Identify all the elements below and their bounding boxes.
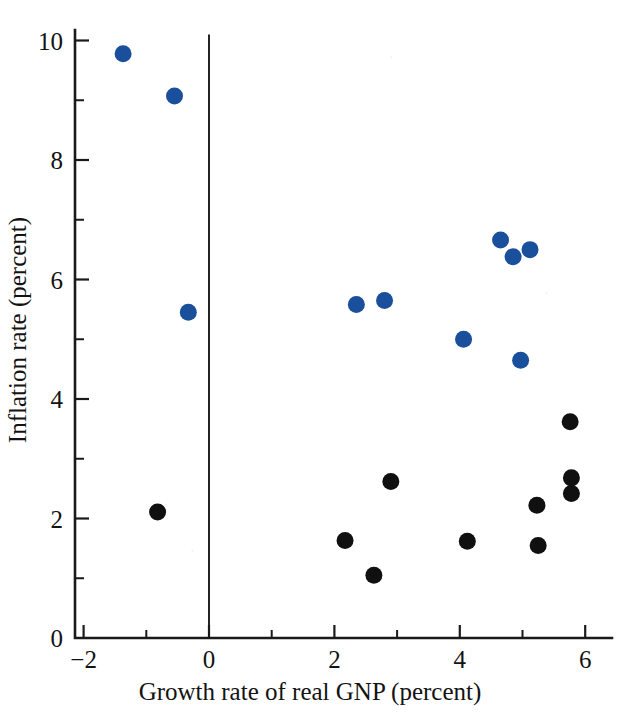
data-point <box>459 533 476 550</box>
data-point <box>512 352 529 369</box>
data-point <box>180 304 197 321</box>
data-point <box>563 469 580 486</box>
plot-canvas: −202460246810 Growth rate of real GNP (p… <box>0 0 621 715</box>
y-tick-label: 6 <box>51 267 64 294</box>
data-point <box>530 537 547 554</box>
data-point <box>166 88 183 105</box>
x-tick-label: 6 <box>579 646 592 673</box>
scatter-plot-figure: −202460246810 Growth rate of real GNP (p… <box>0 0 621 715</box>
data-point <box>337 532 354 549</box>
data-point <box>365 567 382 584</box>
y-tick-label: 4 <box>51 386 64 413</box>
data-point <box>528 497 545 514</box>
data-point <box>348 296 365 313</box>
y-tick-label: 0 <box>51 625 64 652</box>
data-points <box>115 45 580 584</box>
data-point <box>505 248 522 265</box>
y-tick-label: 10 <box>38 28 63 55</box>
x-tick-label: 4 <box>454 646 467 673</box>
y-tick-label: 2 <box>51 506 64 533</box>
x-tick-label: 0 <box>203 646 216 673</box>
series-blue-points <box>115 45 539 369</box>
x-axis-title: Growth rate of real GNP (percent) <box>139 678 482 706</box>
series-black-points <box>149 413 580 584</box>
axis-ticks <box>75 41 585 639</box>
data-point <box>149 503 166 520</box>
x-tick-label: 2 <box>328 646 341 673</box>
data-point <box>492 232 509 249</box>
y-tick-label: 8 <box>51 147 64 174</box>
data-point <box>382 473 399 490</box>
data-point <box>562 413 579 430</box>
data-point <box>115 45 132 62</box>
y-axis-title: Inflation rate (percent) <box>4 217 32 443</box>
x-tick-label: −2 <box>70 646 97 673</box>
data-point <box>455 331 472 348</box>
data-point <box>376 292 393 309</box>
axis-tick-labels: −202460246810 <box>38 28 591 674</box>
data-point <box>522 241 539 258</box>
data-point <box>563 485 580 502</box>
